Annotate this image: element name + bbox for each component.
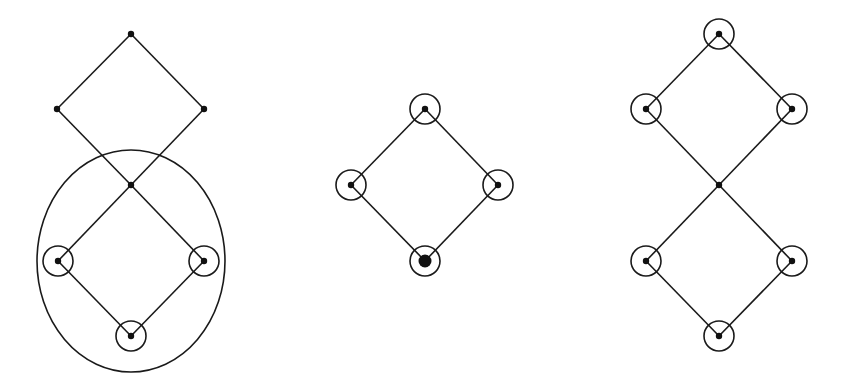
node-dot-icon	[422, 106, 428, 112]
edge-left-center	[646, 109, 719, 185]
node-dot-icon	[201, 258, 207, 264]
node-dot-icon	[348, 182, 354, 188]
left-lattice	[37, 31, 225, 372]
node-lower-left	[43, 246, 73, 276]
node-bottom	[116, 321, 146, 351]
node-dot-icon	[495, 182, 501, 188]
node-dot-icon	[128, 182, 134, 188]
edge-right-center	[719, 109, 792, 185]
node-dot-icon	[789, 258, 795, 264]
node-dot-icon	[128, 31, 134, 37]
edge-top-right	[425, 109, 498, 185]
node-dot-icon	[419, 255, 432, 268]
edge-center-lower-left	[58, 185, 131, 261]
edge-top-right	[131, 34, 204, 109]
diagram-canvas	[0, 0, 849, 390]
node-dot-icon	[128, 333, 134, 339]
node-dot-icon	[54, 106, 60, 112]
node-dot-icon	[716, 31, 722, 37]
node-dot-icon	[716, 182, 722, 188]
node-left	[631, 94, 661, 124]
edge-right-center	[131, 109, 204, 185]
node-top	[704, 19, 734, 49]
edge-left-center	[57, 109, 131, 185]
node-center	[128, 182, 134, 188]
node-bottom	[410, 246, 440, 276]
node-dot-icon	[643, 258, 649, 264]
node-right	[777, 94, 807, 124]
edge-right-bottom	[425, 185, 498, 261]
edge-top-left	[57, 34, 131, 109]
node-dot-icon	[201, 106, 207, 112]
node-right	[201, 106, 207, 112]
node-right	[483, 170, 513, 200]
lattice-diagrams	[0, 0, 849, 390]
node-dot-icon	[643, 106, 649, 112]
node-dot-icon	[55, 258, 61, 264]
node-left	[54, 106, 60, 112]
node-lower-right	[777, 246, 807, 276]
edge-center-lower-right	[719, 185, 792, 261]
right-lattice	[631, 19, 807, 351]
node-top	[410, 94, 440, 124]
edge-left-bottom	[351, 185, 425, 261]
node-lower-left	[631, 246, 661, 276]
edge-center-lower-left	[646, 185, 719, 261]
node-dot-icon	[789, 106, 795, 112]
node-bottom	[704, 321, 734, 351]
edge-top-left	[351, 109, 425, 185]
node-lower-right	[189, 246, 219, 276]
node-center	[716, 182, 722, 188]
edge-center-lower-right	[131, 185, 204, 261]
node-top	[128, 31, 134, 37]
middle-lattice	[336, 94, 513, 276]
node-dot-icon	[716, 333, 722, 339]
node-left	[336, 170, 366, 200]
